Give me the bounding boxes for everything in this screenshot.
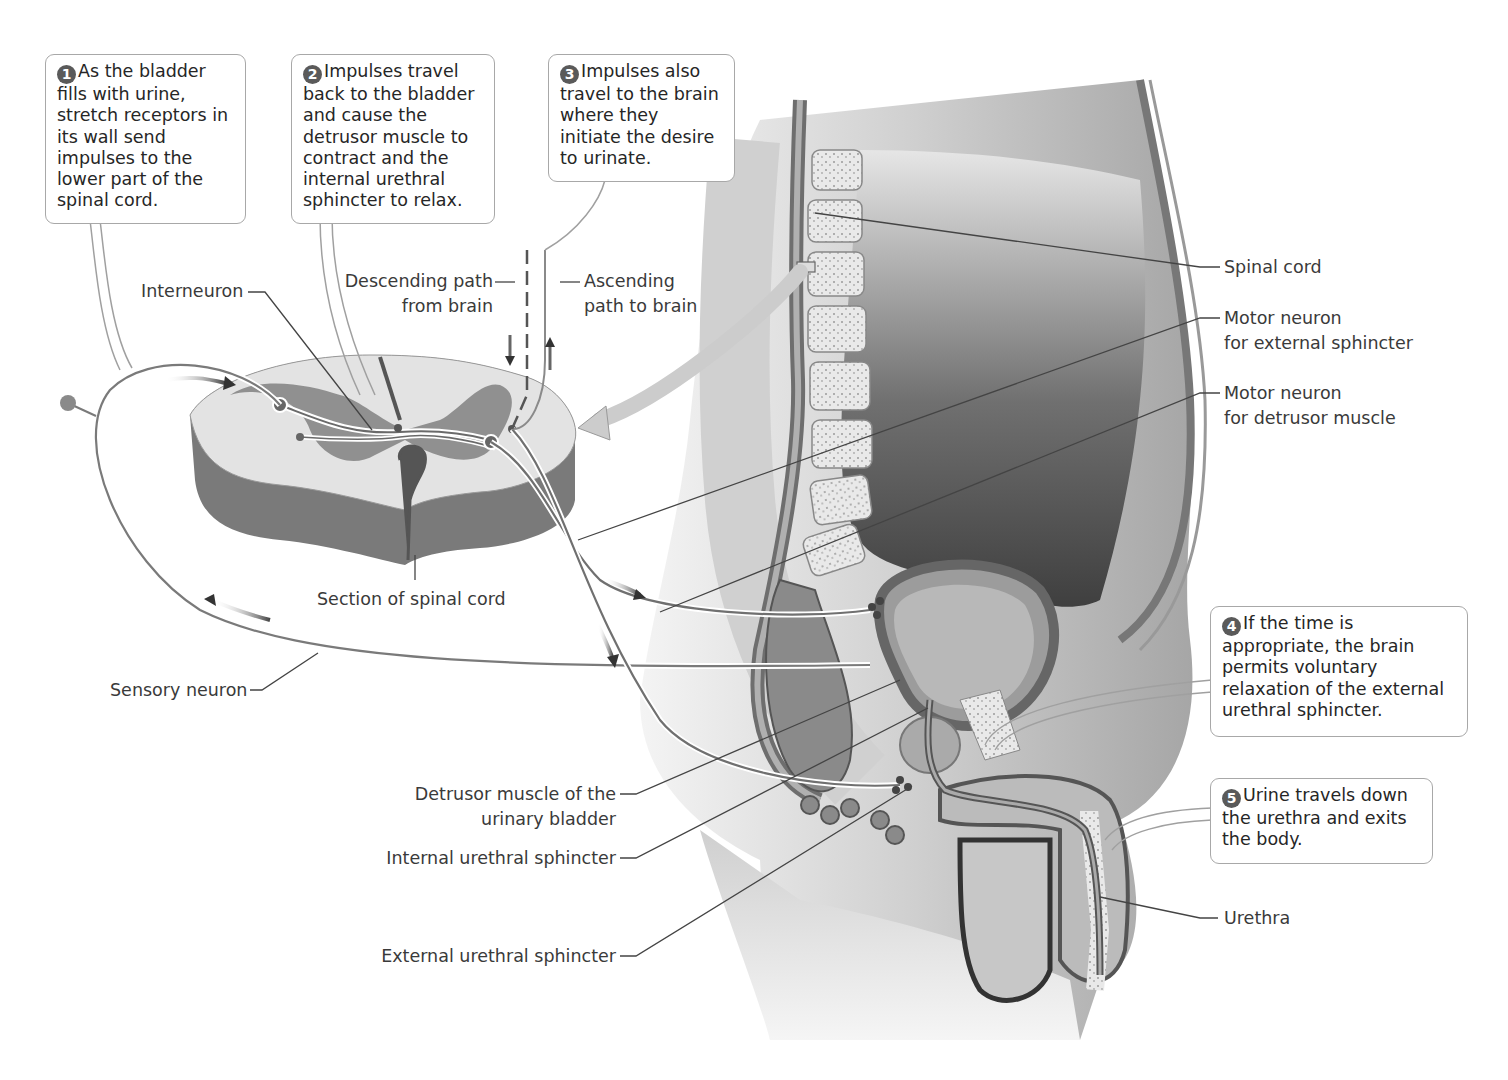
- label-motor-neuron-detrusor: Motor neuron for detrusor muscle: [1224, 381, 1396, 431]
- label-ascending-path-line1: Ascending: [584, 269, 697, 294]
- label-descending-path-line1: Descending path: [330, 269, 493, 294]
- step-2-badge-icon: 2: [303, 65, 322, 84]
- step-4-badge-icon: 4: [1222, 617, 1241, 636]
- callout-step-5-text: Urine travels down the urethra and exits…: [1222, 785, 1408, 849]
- label-descending-path-line2: from brain: [330, 294, 493, 319]
- callout-step-3-text: Impulses also travel to the brain where …: [560, 61, 719, 168]
- label-internal-urethral-sphincter: Internal urethral sphincter: [360, 846, 616, 871]
- callout-step-4-text: If the time is appropriate, the brain pe…: [1222, 613, 1444, 720]
- callout-step-1-text: As the bladder fills with urine, stretch…: [57, 61, 228, 210]
- step-3-badge-icon: 3: [560, 65, 579, 84]
- callout-step-1: 1As the bladder fills with urine, stretc…: [45, 54, 246, 224]
- label-motor-neuron-external-line1: Motor neuron: [1224, 306, 1413, 331]
- callout-step-5: 5Urine travels down the urethra and exit…: [1210, 778, 1433, 864]
- callout-step-4: 4If the time is appropriate, the brain p…: [1210, 606, 1468, 737]
- callout-step-2-text: Impulses travel back to the bladder and …: [303, 61, 474, 210]
- label-external-urethral-sphincter: External urethral sphincter: [360, 944, 616, 969]
- step-5-badge-icon: 5: [1222, 789, 1241, 808]
- label-motor-neuron-external: Motor neuron for external sphincter: [1224, 306, 1413, 356]
- callout-step-2: 2Impulses travel back to the bladder and…: [291, 54, 495, 224]
- label-motor-neuron-detrusor-line2: for detrusor muscle: [1224, 406, 1396, 431]
- label-motor-neuron-external-line2: for external sphincter: [1224, 331, 1413, 356]
- label-ascending-path: Ascending path to brain: [584, 269, 697, 319]
- label-section-of-spinal-cord: Section of spinal cord: [317, 587, 506, 612]
- label-sensory-neuron: Sensory neuron: [110, 678, 247, 703]
- label-spinal-cord: Spinal cord: [1224, 255, 1322, 280]
- micturition-reflex-diagram: 1As the bladder fills with urine, stretc…: [0, 0, 1508, 1080]
- label-urethra: Urethra: [1224, 906, 1290, 931]
- label-descending-path: Descending path from brain: [330, 269, 493, 319]
- label-detrusor-muscle-line2: urinary bladder: [380, 807, 616, 832]
- step-1-badge-icon: 1: [57, 65, 76, 84]
- label-motor-neuron-detrusor-line1: Motor neuron: [1224, 381, 1396, 406]
- label-interneuron: Interneuron: [141, 279, 243, 304]
- callout-step-3: 3Impulses also travel to the brain where…: [548, 54, 735, 182]
- label-ascending-path-line2: path to brain: [584, 294, 697, 319]
- label-detrusor-muscle-line1: Detrusor muscle of the: [380, 782, 616, 807]
- label-detrusor-muscle: Detrusor muscle of the urinary bladder: [380, 782, 616, 832]
